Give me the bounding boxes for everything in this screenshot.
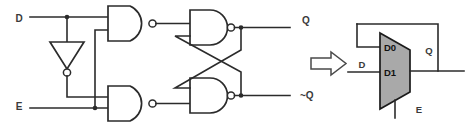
nand-bottom-right-bubble-icon bbox=[227, 92, 234, 99]
nand-top-right-body bbox=[190, 10, 228, 45]
mux-q-output-label: Q bbox=[425, 45, 432, 56]
mux-d1-label: D1 bbox=[384, 67, 397, 78]
junction-e-branch bbox=[93, 106, 98, 111]
nand-bottom-left-bubble-icon bbox=[149, 100, 156, 107]
nand-top-right-bubble-icon bbox=[227, 24, 234, 31]
q-bar-output-label: ~Q bbox=[300, 90, 314, 101]
d-input-label: D bbox=[15, 13, 22, 24]
circuit-figure: D E bbox=[0, 0, 469, 123]
mux-d0-label: D0 bbox=[384, 42, 396, 53]
wire-inverter-to-nand-bottom bbox=[67, 76, 108, 97]
nand-bottom-right-body bbox=[190, 78, 228, 113]
q-output-label: Q bbox=[302, 15, 310, 26]
mux-d-input-label: D bbox=[359, 59, 366, 70]
junction-d-branch bbox=[65, 15, 70, 20]
mux-select-label: E bbox=[416, 104, 422, 115]
e-input-label: E bbox=[16, 101, 23, 112]
circuit-canvas: D E bbox=[0, 0, 469, 123]
nand-top-left-body bbox=[108, 6, 142, 41]
inverter-body bbox=[50, 42, 84, 69]
equivalence-arrow-icon bbox=[311, 52, 346, 75]
inverter-bubble-icon bbox=[63, 69, 70, 76]
nand-top-left-bubble-icon bbox=[149, 20, 156, 27]
nand-bottom-left-body bbox=[108, 86, 142, 121]
wire-mux-feedback-to-d0 bbox=[357, 24, 380, 47]
